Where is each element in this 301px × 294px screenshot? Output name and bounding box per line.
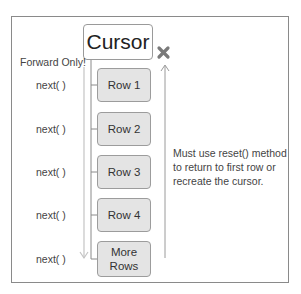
more-rows-line1: More: [111, 245, 137, 259]
reset-note: Must use reset() method to return to fir…: [173, 146, 289, 188]
more-rows-line2: Rows: [110, 259, 139, 273]
row-1-box: Row 1: [97, 68, 151, 102]
row-2-box: Row 2: [97, 112, 151, 146]
row-4-label: Row 4: [108, 208, 141, 222]
row-4-box: Row 4: [97, 198, 151, 232]
x-mark-icon: [159, 48, 168, 57]
row-1-label: Row 1: [108, 78, 141, 92]
down-arrow-icon: [80, 67, 88, 258]
row-2-label: Row 2: [108, 122, 141, 136]
up-arrow-icon: [161, 65, 169, 258]
row-3-box: Row 3: [97, 155, 151, 189]
more-rows-box: More Rows: [97, 241, 151, 277]
row-3-label: Row 3: [108, 165, 141, 179]
